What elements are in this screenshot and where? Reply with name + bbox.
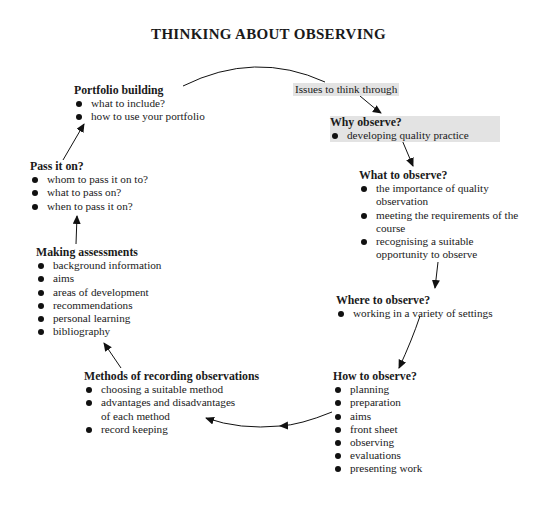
node-heading: Why observe?: [330, 116, 500, 129]
list-item: choosing a suitable method: [84, 383, 284, 396]
list-item: working in a variety of settings: [336, 307, 536, 320]
list-item: advantages and disadvantages of each met…: [84, 396, 241, 422]
node-where-to-observe: Where to observe? working in a variety o…: [336, 294, 536, 320]
node-portfolio-building: Portfolio building what to include? how …: [74, 84, 274, 124]
node-methods-of-recording: Methods of recording observations choosi…: [84, 370, 284, 436]
list-item: bibliography: [36, 325, 216, 338]
node-heading: Where to observe?: [336, 294, 536, 307]
start-label: Issues to think through: [293, 83, 399, 96]
list-item: presenting work: [333, 462, 493, 475]
list-item: recognising a suitable opportunity to ob…: [359, 235, 519, 261]
list-item: observing: [333, 436, 493, 449]
list-item: meeting the requirements of the course: [359, 209, 519, 235]
list-item: how to use your portfolio: [74, 110, 274, 123]
arrow-what-to-where: [435, 262, 438, 288]
list-item: areas of development: [36, 286, 216, 299]
node-heading: Portfolio building: [74, 84, 274, 97]
list-item: what to pass on?: [30, 186, 210, 199]
list-item: front sheet: [333, 423, 493, 436]
list-item: record keeping: [84, 423, 284, 436]
list-item: personal learning: [36, 312, 216, 325]
list-item: planning: [333, 383, 493, 396]
list-item: aims: [36, 272, 216, 285]
list-item: recommendations: [36, 299, 216, 312]
list-item: when to pass it on?: [30, 200, 210, 213]
node-pass-it-on: Pass it on? whom to pass it on to? what …: [30, 160, 210, 213]
arrow-where-to-how: [399, 316, 420, 368]
arrow-methods-to-assess: [104, 343, 121, 368]
arrow-issues-to-why: [360, 96, 381, 113]
list-item: what to include?: [74, 97, 274, 110]
arrow-how-to-methods: [280, 412, 332, 426]
start-label-text: Issues to think through: [295, 83, 397, 95]
arrow-why-to-what: [402, 140, 413, 166]
node-why-observe: Why observe? developing quality practice: [330, 116, 500, 142]
list-item: evaluations: [333, 449, 493, 462]
list-item: the importance of quality observation: [359, 182, 519, 208]
list-item: aims: [333, 410, 493, 423]
arrow-pass-to-portfolio: [63, 124, 84, 160]
node-heading: Making assessments: [36, 246, 216, 259]
node-heading: Pass it on?: [30, 160, 210, 173]
node-what-to-observe: What to observe? the importance of quali…: [359, 169, 519, 261]
node-making-assessments: Making assessments background informatio…: [36, 246, 216, 338]
node-heading: How to observe?: [333, 370, 493, 383]
node-heading: Methods of recording observations: [84, 370, 284, 383]
list-item: background information: [36, 259, 216, 272]
list-item: whom to pass it on to?: [30, 173, 210, 186]
node-heading: What to observe?: [359, 169, 519, 182]
node-how-to-observe: How to observe? planning preparation aim…: [333, 370, 493, 476]
list-item: developing quality practice: [330, 129, 500, 142]
arrow-assess-to-pass: [76, 216, 77, 244]
list-item: preparation: [333, 396, 493, 409]
